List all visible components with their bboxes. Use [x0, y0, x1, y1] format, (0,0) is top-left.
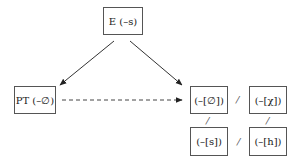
node-zero-label: (–[∅])	[194, 95, 224, 106]
separator-bottom-row: /	[237, 136, 240, 147]
node-e-label: E (–s)	[109, 16, 137, 27]
edge-e-to-zero	[130, 41, 182, 85]
node-zero: (–[∅])	[190, 86, 228, 114]
node-s-label: (–[s])	[196, 136, 222, 147]
node-e: E (–s)	[103, 7, 143, 35]
separator-top-row: /	[236, 94, 239, 105]
edge-e-to-pt	[60, 41, 114, 85]
node-pt: PT (–∅)	[14, 86, 56, 114]
node-chi: (–[χ])	[249, 86, 287, 114]
separator-left-col: /	[206, 115, 209, 126]
node-h: (–[h])	[249, 127, 287, 156]
node-s: (–[s])	[190, 127, 228, 156]
separator-right-col: /	[266, 115, 269, 126]
node-pt-label: PT (–∅)	[16, 95, 54, 106]
node-chi-label: (–[χ])	[255, 95, 282, 106]
node-h-label: (–[h])	[254, 136, 281, 147]
